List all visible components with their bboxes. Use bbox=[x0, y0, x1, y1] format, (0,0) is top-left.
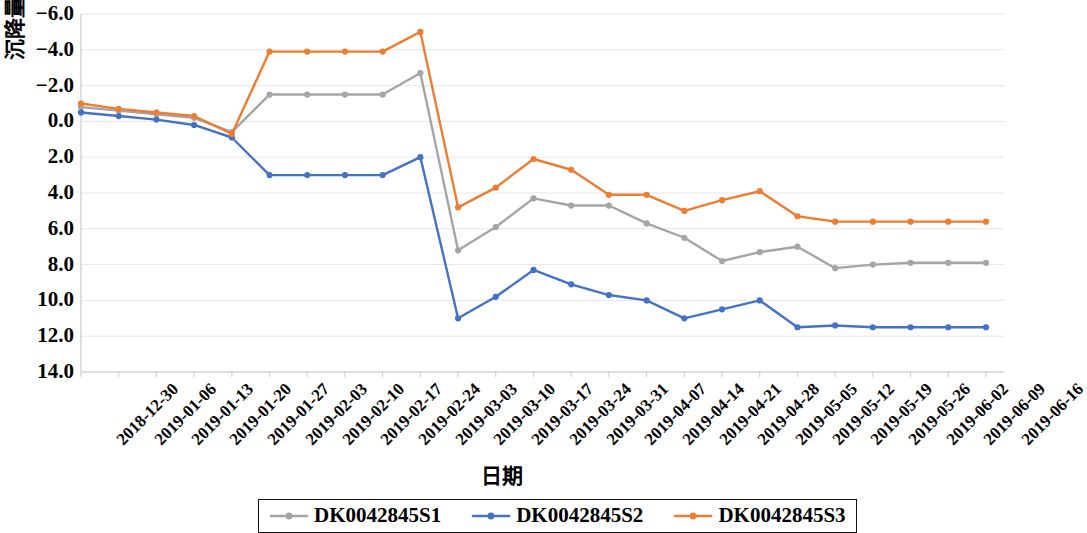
legend-item-DK0042845S1[interactable]: DK0042845S1 bbox=[269, 503, 441, 528]
legend-label: DK0042845S2 bbox=[516, 503, 643, 528]
x-axis-label: 日期 bbox=[0, 459, 1004, 489]
legend-line-marker-icon bbox=[673, 508, 713, 524]
legend-line-marker-icon bbox=[269, 508, 309, 524]
legend-line-marker-icon bbox=[471, 508, 511, 524]
legend-item-DK0042845S3[interactable]: DK0042845S3 bbox=[673, 503, 845, 528]
chart-legend: DK0042845S1DK0042845S2DK0042845S3 bbox=[258, 499, 857, 533]
x-axis-tick-labels: 2018-12-302019-01-062019-01-132019-01-20… bbox=[0, 0, 1004, 460]
legend-item-DK0042845S2[interactable]: DK0042845S2 bbox=[471, 503, 643, 528]
legend-label: DK0042845S1 bbox=[314, 503, 441, 528]
legend-label: DK0042845S3 bbox=[718, 503, 845, 528]
